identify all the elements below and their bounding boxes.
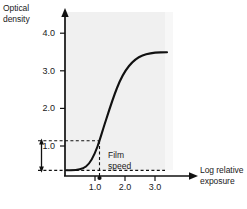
x-tick-label-1: 1.0 [84, 183, 106, 192]
film-speed-axis-marker [97, 176, 101, 180]
y-tick-label-3: 3.0 [33, 67, 55, 76]
x-tick-label-3: 3.0 [144, 183, 166, 192]
y-tick-label-1: 1.0 [33, 142, 55, 151]
x-tick-label-2: 2.0 [114, 183, 136, 192]
plot-background-fade [165, 12, 173, 170]
y-tick-label-4: 4.0 [33, 29, 55, 38]
y-tick-label-2: 2.0 [33, 104, 55, 113]
y-axis-title: Opticaldensity [3, 3, 30, 24]
x-axis-arrowhead [189, 172, 198, 179]
film-speed-label-line1: Film [108, 150, 124, 160]
x-axis-title: Log relativeexposure [200, 165, 243, 186]
film-speed-annotation: Filmspeed [108, 150, 131, 171]
x-axis-title-line2: exposure [200, 176, 235, 186]
density-range-arrow-head-down [39, 167, 44, 173]
film-speed-label-line2: speed [108, 161, 131, 171]
y-axis-title-line2: density [3, 14, 30, 24]
y-axis-title-line1: Optical [3, 3, 29, 13]
x-axis-title-line1: Log relative [200, 165, 243, 175]
